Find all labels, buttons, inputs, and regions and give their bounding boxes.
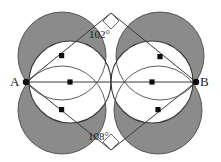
geometry-figure: A B 102° 108° (0, 0, 221, 162)
dot-left-upper (59, 53, 64, 58)
dot-right-upper (157, 54, 162, 59)
point-label-B: B (200, 75, 209, 88)
point-A-dot (23, 79, 29, 85)
point-label-A: A (10, 75, 19, 88)
dot-left-lower (59, 107, 64, 112)
dot-right-lower (155, 107, 160, 112)
figure-canvas (0, 0, 221, 162)
angle-label-bottom: 108° (88, 131, 109, 142)
dot-right-center (149, 79, 154, 84)
dot-left-center (67, 79, 72, 84)
angle-label-top: 102° (89, 29, 110, 40)
point-B-dot (193, 79, 199, 85)
